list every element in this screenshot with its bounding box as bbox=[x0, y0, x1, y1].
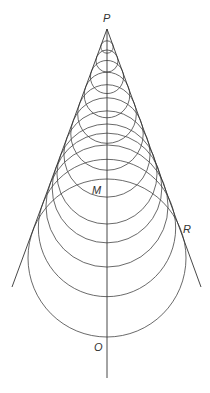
label-o: O bbox=[94, 341, 103, 353]
label-r: R bbox=[183, 223, 191, 235]
cone-circles-diagram: P M R O bbox=[0, 0, 210, 393]
left-tangent-line bbox=[12, 29, 107, 287]
right-tangent-line bbox=[107, 29, 201, 287]
label-p: P bbox=[103, 12, 111, 24]
label-m: M bbox=[92, 184, 102, 196]
